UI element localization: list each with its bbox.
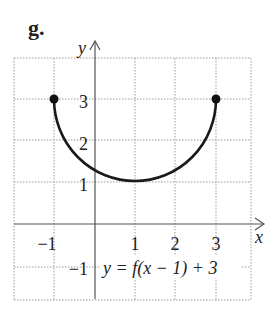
y-axis-label: y — [76, 38, 86, 58]
y-tick-label: −1 — [69, 259, 88, 279]
endpoint-marker-right — [212, 95, 221, 104]
graph: g. y x −1 1 2 3 3 2 1 −1 y = f(x — [0, 0, 271, 314]
x-tick-label: −1 — [37, 234, 56, 254]
part-label: g. — [28, 15, 45, 40]
y-tick-labels: 3 2 1 −1 — [69, 92, 88, 279]
x-tick-label: 2 — [171, 234, 180, 254]
y-tick-label: 2 — [79, 134, 88, 154]
y-tick-label: 1 — [79, 175, 88, 195]
x-axis — [14, 218, 264, 230]
x-tick-labels: −1 1 2 3 — [37, 234, 220, 254]
equation-label: y = f(x − 1) + 3 — [101, 258, 217, 279]
x-axis-label: x — [254, 227, 263, 247]
y-tick-label: 3 — [79, 92, 88, 112]
x-tick-label: 1 — [131, 234, 140, 254]
x-tick-label: 3 — [212, 234, 221, 254]
endpoint-marker-left — [50, 95, 59, 104]
